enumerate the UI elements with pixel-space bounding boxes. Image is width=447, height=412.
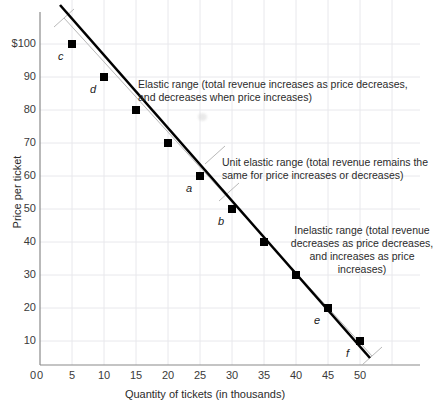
- y-tick-10: 10: [0, 334, 36, 346]
- x-tick-0: 0: [25, 369, 55, 381]
- scan-artifact: [198, 113, 207, 121]
- y-tick-90: 90: [0, 70, 36, 82]
- data-point-f: [356, 337, 364, 345]
- data-point-a: [196, 172, 204, 180]
- y-tick-100: $100: [0, 37, 36, 49]
- point-label-f: f: [346, 347, 349, 359]
- x-axis-title: Quantity of tickets (in thousands): [40, 388, 370, 400]
- axis-lines: [40, 12, 420, 365]
- data-point-20-70: [164, 139, 172, 147]
- vertical-gridlines: [72, 0, 392, 365]
- data-point-c: [68, 40, 76, 48]
- data-point-35-40: [260, 238, 268, 246]
- point-label-b: b: [218, 215, 224, 227]
- point-label-d: d: [90, 83, 96, 95]
- x-tick-20: 20: [153, 369, 183, 381]
- data-point-d: [100, 73, 108, 81]
- x-tick-5: 5: [57, 369, 87, 381]
- x-tick-15: 15: [121, 369, 151, 381]
- range-bracket: [54, 9, 382, 365]
- x-tick-45: 45: [313, 369, 343, 381]
- x-tick-10: 10: [89, 369, 119, 381]
- point-label-c: c: [58, 50, 64, 62]
- y-tick-30: 30: [0, 268, 36, 280]
- annotation-elastic-range: Elastic range (total revenue increases a…: [138, 78, 428, 104]
- data-point-15-80: [132, 106, 140, 114]
- data-point-e: [324, 304, 332, 312]
- annotation-inelastic-range: Inelastic range (total revenue decreases…: [286, 224, 438, 276]
- y-tick-20: 20: [0, 301, 36, 313]
- bracket-end-tick-bottom: [362, 347, 382, 365]
- x-tick-40: 40: [281, 369, 311, 381]
- chart-canvas: [0, 0, 447, 412]
- annotation-unit-elastic-range: Unit elastic range (total revenue remain…: [222, 156, 447, 182]
- data-point-b: [228, 205, 236, 213]
- demand-curve-chart: $100 90 80 70 60 50 40 30 20 10 0 0 5 10…: [0, 0, 447, 412]
- x-tick-30: 30: [217, 369, 247, 381]
- y-tick-80: 80: [0, 103, 36, 115]
- y-axis-title: Price per ticket: [11, 142, 23, 242]
- x-tick-35: 35: [249, 369, 279, 381]
- point-label-a: a: [186, 182, 192, 194]
- x-tick-50: 50: [345, 369, 375, 381]
- point-label-e: e: [314, 314, 320, 326]
- x-tick-25: 25: [185, 369, 215, 381]
